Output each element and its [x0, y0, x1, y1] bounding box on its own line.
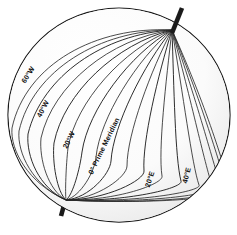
globe-svg-canvas: 60°W 40°W 20°W 0° Prime Meridian 20°E 40…	[0, 0, 237, 235]
globe-diagram-figure: 60°W 40°W 20°W 0° Prime Meridian 20°E 40…	[0, 0, 237, 235]
